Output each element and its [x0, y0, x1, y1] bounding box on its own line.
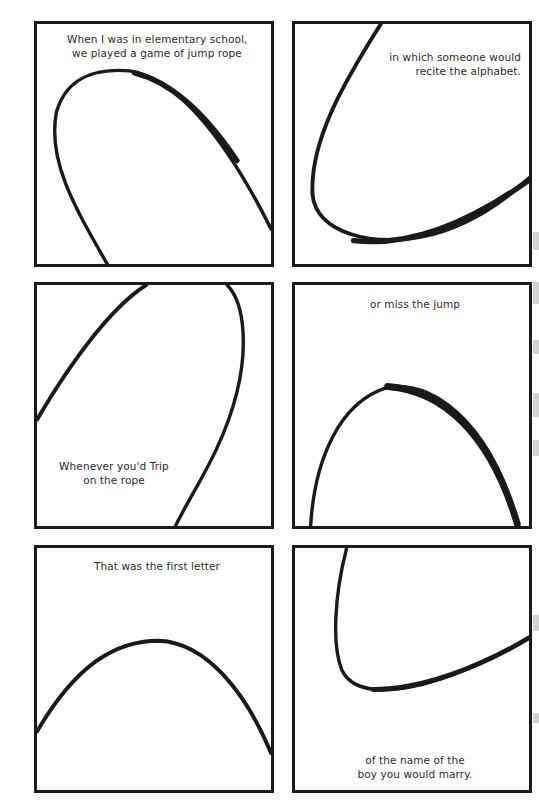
- panel-6-caption: of the name of the boy you would marry.: [335, 753, 495, 781]
- page-edge-mark: [533, 440, 539, 456]
- caption-line: on the rope: [59, 473, 169, 487]
- comic-panel-5: That was the first letter: [34, 545, 274, 793]
- jump-rope-arc-drawing: [37, 548, 271, 790]
- panel-3-caption: Whenever you'd Trip on the rope: [59, 459, 169, 487]
- comic-panel-1: When I was in elementary school, we play…: [34, 21, 274, 267]
- caption-line: When I was in elementary school,: [67, 32, 247, 46]
- comic-panel-3: Whenever you'd Trip on the rope: [34, 282, 274, 529]
- jump-rope-arc-drawing: [37, 285, 271, 526]
- panel-2-caption: in which someone would recite the alphab…: [389, 50, 521, 78]
- caption-line: recite the alphabet.: [389, 64, 521, 78]
- jump-rope-arc-drawing: [37, 24, 271, 264]
- page-edge-mark: [533, 615, 539, 631]
- page-edge-mark: [533, 232, 539, 250]
- comic-panel-2: in which someone would recite the alphab…: [292, 21, 532, 267]
- jump-rope-arc-drawing: [295, 285, 529, 526]
- caption-line: we played a game of jump rope: [67, 46, 247, 60]
- comic-page: When I was in elementary school, we play…: [0, 0, 539, 809]
- page-edge-mark: [533, 282, 539, 304]
- panel-4-caption: or miss the jump: [335, 297, 495, 311]
- caption-line: or miss the jump: [335, 297, 495, 311]
- page-edge-mark: [533, 393, 539, 417]
- comic-panel-4: or miss the jump: [292, 282, 532, 529]
- page-edge-mark: [533, 340, 539, 354]
- caption-line: boy you would marry.: [335, 767, 495, 781]
- caption-line: of the name of the: [335, 753, 495, 767]
- comic-panel-6: of the name of the boy you would marry.: [292, 545, 532, 793]
- panel-5-caption: That was the first letter: [57, 559, 257, 573]
- caption-line: in which someone would: [389, 50, 521, 64]
- page-edge-mark: [533, 713, 539, 723]
- caption-line: Whenever you'd Trip: [59, 459, 169, 473]
- panel-1-caption: When I was in elementary school, we play…: [67, 32, 247, 60]
- caption-line: That was the first letter: [57, 559, 257, 573]
